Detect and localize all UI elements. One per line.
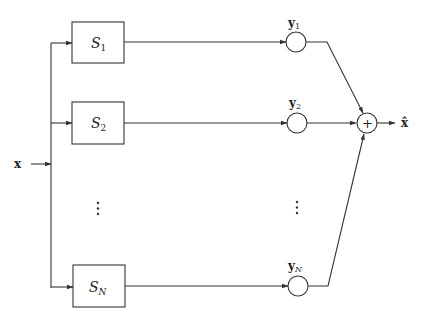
block-diagram: x x̂ + S1 S2 SN y1 y2 yN [0, 0, 422, 321]
summer-symbol: + [362, 116, 373, 131]
node-y2 [287, 113, 307, 133]
node-y1 [286, 32, 306, 52]
node-yn [288, 276, 308, 296]
block-sn [73, 265, 125, 307]
output-label: x̂ [401, 116, 409, 130]
block-s2-label: S2 [91, 115, 106, 133]
block-s1-label: S1 [91, 35, 106, 53]
block-sn-label: SN [89, 279, 108, 297]
link-yn-sum [308, 134, 364, 286]
input-label: x [14, 157, 22, 171]
ellipsis-nodes [296, 201, 298, 214]
link-y1-sum [306, 42, 363, 113]
yn-label: yN [287, 259, 303, 274]
y1-label: y1 [287, 16, 300, 31]
y2-label: y2 [288, 96, 301, 111]
ellipsis-blocks [97, 202, 99, 215]
